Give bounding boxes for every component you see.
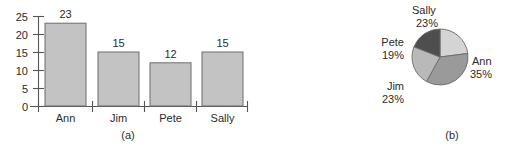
y-tick-label-5: 5 — [22, 83, 28, 95]
bar-ann — [45, 23, 86, 106]
pie-label-ann: Ann — [472, 55, 492, 67]
caption-panel-b: (b) — [432, 129, 472, 141]
bar-jim — [98, 52, 139, 106]
pie-percent-pete: 19% — [382, 49, 404, 61]
bar-sally — [202, 52, 243, 106]
bar-value-sally: 15 — [216, 37, 228, 49]
pie-chart-svg: Sally 23% Ann 35% Jim 23% Pete 19% — [360, 0, 510, 125]
pie-percent-ann: 35% — [470, 68, 492, 80]
bar-chart-panel: 25 20 15 10 5 0 23 15 12 15 — [0, 0, 280, 149]
bar-value-jim: 15 — [112, 37, 124, 49]
x-category-label-sally: Sally — [211, 112, 235, 124]
pie-label-pete: Pete — [381, 36, 404, 48]
pie-percent-jim: 23% — [382, 93, 404, 105]
y-tick-label-20: 20 — [16, 29, 28, 41]
y-tick-label-15: 15 — [16, 47, 28, 59]
x-category-label-ann: Ann — [56, 112, 76, 124]
x-category-label-pete: Pete — [159, 112, 182, 124]
figure-container: 25 20 15 10 5 0 23 15 12 15 — [0, 0, 510, 149]
y-tick-label-10: 10 — [16, 65, 28, 77]
pie-label-sally: Sally — [412, 4, 436, 16]
y-tick-label-25: 25 — [16, 11, 28, 23]
x-category-label-jim: Jim — [110, 112, 127, 124]
bar-chart-svg: 25 20 15 10 5 0 23 15 12 15 — [0, 0, 280, 125]
pie-slice-sally — [440, 29, 468, 57]
bar-pete — [150, 63, 191, 106]
pie-chart-panel: Sally 23% Ann 35% Jim 23% Pete 19% (b) — [360, 0, 510, 149]
caption-panel-a: (a) — [108, 129, 148, 141]
pie-percent-sally: 23% — [416, 17, 438, 29]
bar-value-ann: 23 — [59, 8, 71, 20]
pie-label-jim: Jim — [387, 80, 404, 92]
y-tick-label-0: 0 — [22, 101, 28, 113]
bar-value-pete: 12 — [164, 48, 176, 60]
